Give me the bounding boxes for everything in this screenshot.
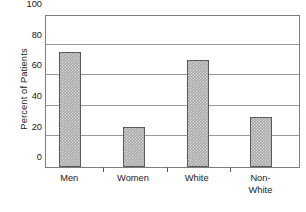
bar	[123, 127, 145, 167]
gridline	[46, 74, 299, 75]
y-axis-tick-label: 60	[32, 62, 42, 71]
x-axis-category-label: Women	[117, 173, 149, 185]
x-axis-category-label: Non- White	[249, 173, 273, 196]
x-axis-tick	[103, 167, 104, 172]
plot-area: 020406080100	[45, 15, 300, 168]
y-axis-tick-label: 20	[32, 123, 42, 132]
y-axis-tick-label: 40	[32, 92, 42, 101]
bar	[250, 117, 272, 167]
y-axis-title: Percent of Patients	[19, 24, 29, 154]
y-axis-tick-label: 100	[26, 1, 42, 10]
x-axis-category-label: Men	[60, 173, 78, 185]
bar-chart: Percent of Patients 020406080100 MenWome…	[0, 0, 306, 212]
bar	[187, 60, 209, 167]
x-axis-tick	[230, 167, 231, 172]
y-axis-tick-label: 0	[37, 154, 42, 163]
bar	[59, 52, 81, 167]
x-axis-tick	[167, 167, 168, 172]
gridline	[46, 105, 299, 106]
y-axis-tick-label: 80	[32, 31, 42, 40]
gridline	[46, 44, 299, 45]
x-axis-category-label: White	[185, 173, 209, 185]
